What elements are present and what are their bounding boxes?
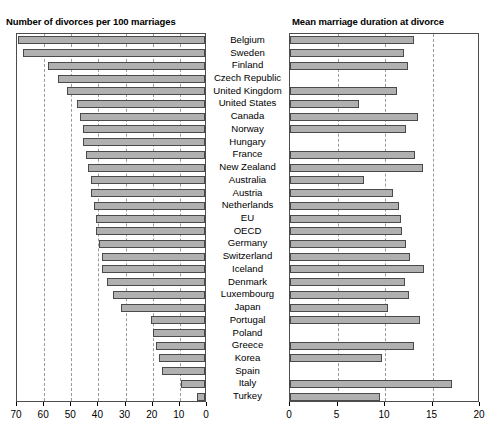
bar: [102, 253, 205, 261]
bar: [48, 62, 205, 70]
bar: [23, 49, 205, 57]
bar: [162, 367, 205, 375]
bar: [290, 240, 406, 248]
country-label: New Zealand: [206, 161, 289, 172]
country-label: Korea: [206, 352, 289, 363]
country-label: France: [206, 148, 289, 159]
country-label: Germany: [206, 237, 289, 248]
bar: [77, 100, 205, 108]
bar: [18, 36, 205, 44]
axis-tick-label: 0: [269, 409, 309, 420]
bar: [290, 215, 401, 223]
axis-tick-label: 10: [364, 409, 404, 420]
left-chart-title: Number of divorces per 100 marriages: [6, 16, 176, 27]
axis-tick-mark: [179, 402, 180, 406]
country-label: Spain: [206, 365, 289, 376]
country-label: Poland: [206, 327, 289, 338]
axis-tick-label: 0: [186, 409, 226, 420]
bar: [290, 227, 402, 235]
axis-tick-label: 15: [412, 409, 452, 420]
country-label: Switzerland: [206, 250, 289, 261]
country-label: Czech Republic: [206, 72, 289, 83]
bar: [88, 164, 205, 172]
country-label: Belgium: [206, 34, 289, 45]
axis-tick-mark: [206, 402, 207, 406]
axis-tick-mark: [152, 402, 153, 406]
axis-tick-mark: [70, 402, 71, 406]
country-label: Turkey: [206, 390, 289, 401]
gridline: [433, 34, 434, 401]
axis-tick-mark: [289, 402, 290, 406]
bar: [290, 202, 399, 210]
bar: [121, 304, 205, 312]
country-label: Australia: [206, 174, 289, 185]
bar: [290, 253, 410, 261]
country-label: Luxembourg: [206, 288, 289, 299]
axis-tick-label: 20: [459, 409, 488, 420]
country-label: Sweden: [206, 47, 289, 58]
axis-tick-mark: [337, 402, 338, 406]
bar: [290, 36, 414, 44]
bar: [181, 380, 205, 388]
right-chart-plot-area: [289, 33, 479, 402]
bar: [102, 265, 205, 273]
bar: [290, 278, 405, 286]
bar: [67, 87, 205, 95]
country-label: Austria: [206, 187, 289, 198]
bar: [290, 87, 397, 95]
axis-tick-mark: [125, 402, 126, 406]
bar: [197, 393, 205, 401]
country-label: Canada: [206, 110, 289, 121]
bar: [113, 291, 205, 299]
country-label: United Kingdom: [206, 85, 289, 96]
country-label: Denmark: [206, 276, 289, 287]
bar: [99, 240, 205, 248]
bar: [86, 151, 205, 159]
bar: [58, 75, 205, 83]
country-label: Norway: [206, 123, 289, 134]
country-label: Japan: [206, 301, 289, 312]
country-label: Hungary: [206, 136, 289, 147]
bar: [159, 354, 205, 362]
bar: [96, 215, 205, 223]
bar: [107, 278, 205, 286]
bar: [290, 304, 388, 312]
bar: [290, 176, 364, 184]
bar: [290, 354, 382, 362]
axis-tick-mark: [384, 402, 385, 406]
bar: [153, 329, 205, 337]
country-label: Netherlands: [206, 199, 289, 210]
bar: [156, 342, 205, 350]
country-label: Finland: [206, 59, 289, 70]
bar: [290, 380, 452, 388]
bar: [290, 113, 418, 121]
bar: [290, 265, 424, 273]
bar: [290, 125, 406, 133]
bar: [290, 393, 380, 401]
bar: [91, 176, 205, 184]
axis-tick-mark: [97, 402, 98, 406]
gridline: [44, 34, 45, 401]
right-chart-title: Mean marriage duration at divorce: [292, 16, 444, 27]
axis-tick-label: 5: [317, 409, 357, 420]
bar: [290, 342, 414, 350]
bar: [80, 113, 205, 121]
bar: [83, 125, 205, 133]
bar: [290, 100, 359, 108]
bar: [94, 202, 205, 210]
bar: [91, 189, 205, 197]
bar: [290, 316, 420, 324]
country-label: Portugal: [206, 314, 289, 325]
country-label: EU: [206, 212, 289, 223]
country-label: OECD: [206, 225, 289, 236]
bar: [290, 164, 423, 172]
axis-tick-mark: [479, 402, 480, 406]
country-label: Iceland: [206, 263, 289, 274]
bar: [290, 291, 409, 299]
bar: [290, 189, 393, 197]
bar: [290, 62, 408, 70]
axis-tick-mark: [432, 402, 433, 406]
left-chart-plot-area: [16, 33, 206, 402]
country-label: United States: [206, 97, 289, 108]
country-label: Greece: [206, 339, 289, 350]
